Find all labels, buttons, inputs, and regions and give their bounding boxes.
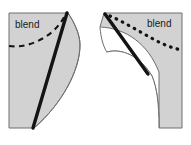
blend-label-right: blend <box>147 18 171 29</box>
blend-label-left: blend <box>15 19 39 30</box>
left-body-shape <box>9 13 80 128</box>
right-waist-cutout <box>107 51 159 128</box>
figure-root: blend blend <box>0 0 191 145</box>
